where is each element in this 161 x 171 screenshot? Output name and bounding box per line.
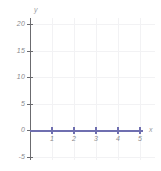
x-tick-label-3: 3 <box>90 135 102 142</box>
y-axis-tick <box>27 77 33 78</box>
y-axis-tick <box>27 51 33 52</box>
gridline-horizontal <box>30 104 155 105</box>
x-tick-label-4: 4 <box>112 135 124 142</box>
y-tick-label-20: 20 <box>0 20 25 27</box>
x-axis-tick <box>73 127 75 134</box>
x-axis-tick <box>95 127 97 134</box>
y-tick-label-5: 5 <box>0 100 25 107</box>
x-axis-tick <box>139 127 141 134</box>
y-tick-label-10: 10 <box>0 73 25 80</box>
cartesian-plot: 20 15 10 5 0 -5 1 2 3 4 5 y x <box>0 0 161 171</box>
y-tick-label-neg5: -5 <box>0 153 25 160</box>
x-axis-label: x <box>149 126 153 133</box>
y-axis-tick <box>27 104 33 105</box>
x-tick-label-2: 2 <box>68 135 80 142</box>
series-line-y-equals-0 <box>30 130 143 132</box>
x-tick-label-5: 5 <box>134 135 146 142</box>
y-axis-label: y <box>34 6 38 13</box>
x-tick-label-1: 1 <box>46 135 58 142</box>
gridline-horizontal <box>30 24 155 25</box>
y-axis-tick <box>27 157 33 158</box>
y-tick-label-0: 0 <box>0 126 25 133</box>
gridline-horizontal <box>30 157 155 158</box>
x-axis-tick <box>117 127 119 134</box>
y-axis-tick <box>27 24 33 25</box>
x-axis-tick <box>51 127 53 134</box>
y-axis <box>30 18 31 160</box>
y-tick-label-15: 15 <box>0 47 25 54</box>
gridline-horizontal <box>30 77 155 78</box>
gridline-horizontal <box>30 51 155 52</box>
